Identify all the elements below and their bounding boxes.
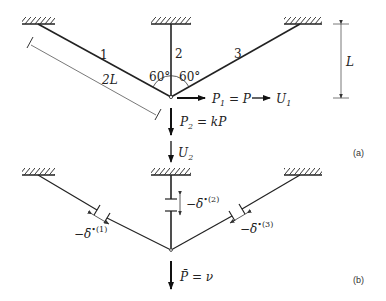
panel-a: 1 2 3 60° 60° 2L L P1 = P U1 — [22, 17, 364, 162]
load-pbar-label: P̄ = ν — [179, 269, 213, 284]
member-2-gapped — [165, 175, 180, 250]
gap-2-label: −δ̄•(2) — [186, 195, 219, 211]
support-center-b — [151, 168, 191, 175]
joint-a — [169, 95, 172, 98]
member-2-label: 2 — [175, 47, 183, 61]
gap-1-label: −δ̄•(1) — [74, 225, 107, 241]
angle-right-label: 60° — [179, 70, 200, 84]
support-right-b — [284, 168, 322, 175]
load-p1-label: P1 = P — [211, 92, 252, 108]
support-left-a — [22, 17, 55, 24]
member-3-gapped — [171, 175, 300, 250]
support-left-b — [22, 168, 55, 175]
member-3-label: 3 — [234, 47, 242, 61]
dimension-2L-label: 2L — [101, 73, 118, 87]
dimension-L: L — [333, 24, 354, 98]
support-right-a — [284, 17, 322, 24]
gap-3-label: −δ̄•(3) — [240, 220, 273, 236]
displacement-u1-label: U1 — [276, 92, 291, 108]
dimension-L-label: L — [345, 55, 354, 69]
panel-b-tag: (b) — [353, 275, 364, 285]
member-1-label: 1 — [100, 48, 108, 62]
support-center-a — [151, 17, 191, 24]
load-p2-label: P2 = kP — [179, 115, 227, 131]
dimension-2L: 2L — [27, 37, 161, 120]
joint-b — [170, 249, 173, 252]
panel-b: −δ̄•(1) −δ̄•(2) −δ̄•(3) P̄ = ν — [22, 168, 364, 289]
member-1-gapped — [38, 175, 171, 250]
panel-a-tag: (a) — [353, 148, 364, 158]
truss-figure: 1 2 3 60° 60° 2L L P1 = P U1 — [0, 0, 386, 301]
displacement-u2-label: U2 — [178, 146, 193, 162]
angle-left-label: 60° — [149, 70, 170, 84]
